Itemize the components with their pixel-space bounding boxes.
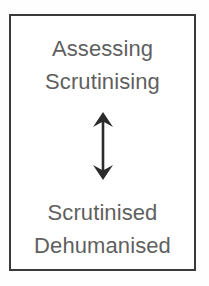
bottom-label-group: Scrutinised Dehumanised (11, 196, 194, 262)
label-dehumanised: Dehumanised (34, 229, 171, 262)
top-label-group: Assessing Scrutinising (11, 32, 194, 98)
label-scrutinised: Scrutinised (48, 196, 158, 229)
diagram-canvas: Assessing Scrutinising Scrutinised Dehum… (0, 0, 209, 286)
label-scrutinising: Scrutinising (45, 65, 160, 98)
connector-arrow-wrap (11, 110, 194, 182)
concept-box: Assessing Scrutinising Scrutinised Dehum… (9, 14, 196, 271)
label-assessing: Assessing (52, 32, 153, 65)
double-headed-vertical-arrow-icon (88, 110, 118, 182)
